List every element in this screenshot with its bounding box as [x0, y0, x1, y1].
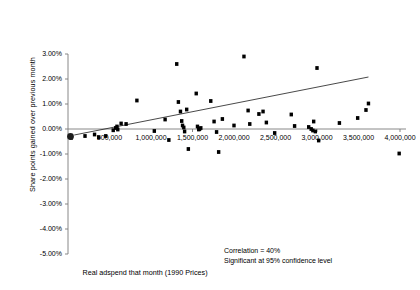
data-point — [179, 110, 182, 114]
data-point — [177, 100, 180, 104]
annotation-significance: Significant at 95% confidence level — [224, 256, 332, 266]
data-point — [248, 122, 251, 126]
data-point — [212, 120, 215, 124]
data-point — [367, 102, 370, 106]
x-axis-label: Real adspend that month (1990 Prices) — [0, 268, 290, 277]
data-point — [397, 152, 400, 156]
data-point — [315, 66, 318, 70]
data-point — [221, 117, 224, 121]
data-point — [185, 108, 188, 112]
data-point — [175, 62, 178, 66]
data-point — [364, 108, 367, 112]
data-point — [257, 112, 260, 116]
data-point — [153, 129, 156, 133]
data-point — [163, 118, 166, 122]
data-point — [290, 113, 293, 117]
data-point — [261, 110, 264, 114]
y-tick-label: 0.00% — [18, 125, 62, 132]
data-point — [232, 124, 235, 128]
data-point — [265, 121, 268, 125]
data-point — [135, 99, 138, 103]
y-tick-label: 1.00% — [18, 100, 62, 107]
data-point — [246, 109, 249, 113]
annotation-correlation: Correlation = 40% — [224, 246, 332, 256]
y-tick-label: -2.00% — [18, 175, 62, 182]
y-tick-label: -5.00% — [18, 250, 62, 257]
data-point — [124, 122, 127, 126]
data-point — [195, 92, 198, 96]
y-tick-label: 2.00% — [18, 75, 62, 82]
data-point — [217, 150, 220, 154]
data-point — [312, 120, 315, 124]
data-point — [182, 126, 185, 130]
y-tick-label: -1.00% — [18, 150, 62, 157]
data-point — [356, 116, 359, 120]
data-point — [209, 99, 212, 103]
chart-annotation: Correlation = 40% Significant at 95% con… — [224, 246, 332, 265]
data-point — [180, 119, 183, 123]
y-tick-label: -3.00% — [18, 200, 62, 207]
data-point — [242, 55, 245, 59]
data-point — [187, 147, 190, 151]
y-tick-label: 3.00% — [18, 50, 62, 57]
data-point — [116, 128, 119, 132]
origin-marker — [67, 133, 74, 140]
data-point — [199, 126, 202, 130]
data-point — [314, 130, 317, 134]
data-point — [183, 130, 186, 134]
data-point — [119, 122, 122, 126]
data-point — [338, 121, 341, 125]
y-tick-label: -4.00% — [18, 225, 62, 232]
data-point — [293, 124, 296, 128]
x-tick-label: 4,000,000 — [374, 134, 420, 141]
